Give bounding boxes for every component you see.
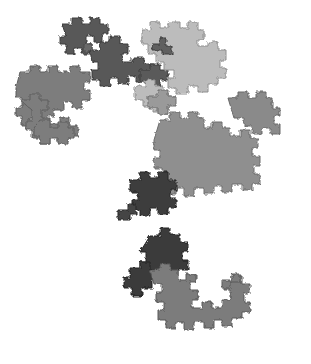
bottom-mid-dragon (150, 264, 250, 330)
dragon-curve-figure (0, 0, 311, 364)
left-mid-dragon (16, 66, 90, 144)
center-dark-dragon (118, 172, 176, 220)
